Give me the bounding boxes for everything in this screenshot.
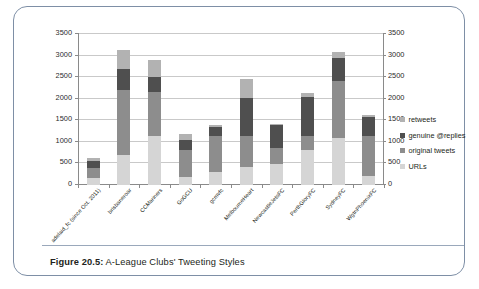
x-label-4: gcmvfc xyxy=(208,187,225,204)
legend-item-retweets[interactable]: retweets xyxy=(400,115,479,124)
bar-segment-genuine--replies xyxy=(301,97,314,136)
ytick-right-2500: 2500 xyxy=(388,72,418,80)
chart-legend: retweetsgenuine @repliesoriginal tweetsU… xyxy=(400,115,479,177)
ytick-left-2000: 2000 xyxy=(42,94,72,102)
bar-segment-original-tweets xyxy=(209,136,222,172)
ytick-right-0: 0 xyxy=(388,180,418,188)
x-label-6: NewcastleJetsFC xyxy=(251,187,285,224)
ytick-left-2500: 2500 xyxy=(42,72,72,80)
bar-segment-retweets xyxy=(362,115,375,117)
bar-segment-urls xyxy=(117,155,130,185)
legend-item-urls[interactable]: URLs xyxy=(400,162,479,171)
legend-swatch-icon xyxy=(400,117,405,122)
bar-segment-genuine--replies xyxy=(179,140,192,150)
bar-series-container xyxy=(78,33,384,185)
x-label-2: CCMariners xyxy=(138,187,163,214)
bar-segment-retweets xyxy=(87,158,100,161)
caption-divider xyxy=(42,245,464,246)
x-label-3: GoGCU xyxy=(176,187,194,206)
bar-segment-retweets xyxy=(179,134,192,140)
legend-label: original tweets xyxy=(409,146,456,155)
bar-segment-retweets xyxy=(117,50,130,69)
legend-label: retweets xyxy=(409,115,437,124)
ytick-left-3500: 3500 xyxy=(42,29,72,37)
bar-segment-retweets xyxy=(332,52,345,59)
legend-item-original-tweets[interactable]: original tweets xyxy=(400,146,479,155)
bar-segment-genuine--replies xyxy=(362,117,375,135)
ytick-right-3000: 3000 xyxy=(388,51,418,59)
bar-segment-genuine--replies xyxy=(117,69,130,91)
legend-label: genuine @replies xyxy=(409,131,466,140)
ytick-left-1500: 1500 xyxy=(42,115,72,123)
bar-segment-urls xyxy=(179,177,192,185)
bar-segment-retweets xyxy=(209,125,222,127)
x-label-7: PerthGloryFC xyxy=(288,187,316,217)
ytick-left-500: 500 xyxy=(42,158,72,166)
figure-caption: Figure 20.5: A-League Clubs' Tweeting St… xyxy=(50,257,450,267)
bar-segment-retweets xyxy=(240,79,253,98)
figure-caption-text: A-League Clubs' Tweeting Styles xyxy=(103,257,244,267)
x-label-9: WgtnPhoenixFC xyxy=(345,187,377,222)
ytick-right-2000: 2000 xyxy=(388,94,418,102)
bar-segment-urls xyxy=(209,172,222,185)
x-label-5: MelbourneHeart xyxy=(223,187,255,221)
bar-segment-genuine--replies xyxy=(87,161,100,168)
bar-segment-genuine--replies xyxy=(240,98,253,136)
bar-segment-retweets xyxy=(148,60,161,77)
x-tickmark xyxy=(384,185,385,188)
bar-segment-original-tweets xyxy=(240,136,253,167)
bar-segment-retweets xyxy=(301,93,314,97)
x-label-1: brisbaneroar xyxy=(106,187,132,215)
figure-frame: 3500 3000 2500 2000 1500 1000 500 0 3500… xyxy=(13,6,465,276)
bar-segment-urls xyxy=(301,150,314,185)
bar-segment-genuine--replies xyxy=(332,58,345,81)
legend-swatch-icon xyxy=(400,148,405,153)
bar-segment-original-tweets xyxy=(117,90,130,154)
legend-swatch-icon xyxy=(400,133,405,138)
bar-segment-urls xyxy=(362,176,375,185)
x-axis-labels: adelaid_fc (since Oct. 2011)brisbaneroar… xyxy=(78,187,384,239)
bar-segment-retweets xyxy=(270,124,283,125)
bar-segment-urls xyxy=(87,178,100,185)
bar-segment-original-tweets xyxy=(148,92,161,136)
bar-segment-original-tweets xyxy=(87,168,100,178)
bar-segment-genuine--replies xyxy=(148,77,161,92)
bar-segment-urls xyxy=(332,138,345,185)
x-label-0: adelaid_fc (since Oct. 2011) xyxy=(50,187,102,244)
bar-segment-urls xyxy=(148,136,161,185)
bar-segment-original-tweets xyxy=(362,136,375,176)
legend-label: URLs xyxy=(409,162,427,171)
figure-page: 3500 3000 2500 2000 1500 1000 500 0 3500… xyxy=(0,0,479,289)
bar-segment-urls xyxy=(240,167,253,185)
legend-item-genuine--replies[interactable]: genuine @replies xyxy=(400,131,479,140)
bar-segment-genuine--replies xyxy=(270,124,283,147)
x-label-8: SydneyFC xyxy=(324,187,346,211)
chart-area: 3500 3000 2500 2000 1500 1000 500 0 3500… xyxy=(42,19,462,237)
ytick-left-0: 0 xyxy=(42,180,72,188)
ytick-left-1000: 1000 xyxy=(42,137,72,145)
bar-segment-urls xyxy=(270,164,283,185)
bar-segment-original-tweets xyxy=(332,81,345,138)
legend-swatch-icon xyxy=(400,164,405,169)
bar-segment-original-tweets xyxy=(270,148,283,164)
bar-segment-original-tweets xyxy=(301,136,314,150)
figure-caption-label: Figure 20.5: xyxy=(50,257,103,267)
ytick-right-3500: 3500 xyxy=(388,29,418,37)
bar-segment-original-tweets xyxy=(179,150,192,176)
ytick-left-3000: 3000 xyxy=(42,51,72,59)
bar-segment-genuine--replies xyxy=(209,127,222,136)
